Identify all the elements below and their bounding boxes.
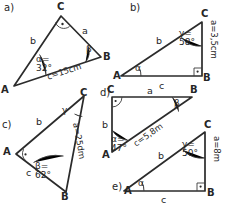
angle-label-gamma: γ [62, 106, 67, 115]
figure-panel-c: c) C B A a=25dm b c β= 62° γ [0, 88, 110, 205]
angle-label-gamma: γ= 58° [179, 29, 195, 47]
angle-label-beta: β [86, 45, 92, 54]
vertex-label-a: A [102, 150, 110, 160]
panel-label-a: a) [4, 3, 14, 13]
vertex-label-a: A [3, 147, 11, 157]
vertex-label-c: C [204, 120, 211, 130]
vertex-label-a: A [124, 186, 132, 196]
gamma-value: 50° [182, 148, 198, 158]
beta-value: 62° [35, 170, 51, 180]
angle-label-alpha: α [138, 179, 144, 188]
side-label-b: b [36, 117, 42, 127]
gamma-value: 58° [179, 37, 195, 47]
vertex-label-b: B [190, 85, 198, 95]
right-angle-dot-c [115, 100, 117, 102]
panel-label-c: c) [2, 120, 11, 130]
side-label-a: a [82, 26, 88, 36]
vertex-label-b: B [61, 192, 69, 202]
side-label-b: b [156, 36, 162, 46]
vertex-label-c: C [201, 9, 208, 19]
side-label-c: c [26, 168, 31, 178]
vertex-label-a: A [113, 71, 121, 81]
figure-panel-e: e) C B A a=8m b c α γ= 50° [113, 118, 226, 205]
right-angle-dot-c [61, 23, 63, 25]
panel-label-e: e) [112, 182, 122, 192]
side-label-a: a [147, 86, 153, 96]
figure-panel-b: b) C B A a=3,5cm b c α γ= 58° [113, 0, 226, 100]
angle-label-beta: β= 62° [35, 162, 51, 180]
figure-panel-a: a) C B A a b c=15cm α= 32° β [0, 0, 113, 100]
side-label-c: c [161, 195, 166, 205]
vertex-label-c: C [80, 88, 87, 98]
side-label-b: b [158, 151, 164, 161]
angle-label-alpha: α= 32° [36, 55, 52, 73]
angle-label-alpha: α [135, 64, 141, 73]
angle-label-gamma: γ= 50° [182, 140, 198, 158]
triangle-c-drawing [0, 88, 110, 205]
right-angle-dot-b [200, 186, 202, 188]
side-label-b: b [102, 120, 108, 130]
vertex-label-b: B [207, 188, 215, 198]
side-label-a: a=3,5cm [210, 20, 219, 59]
alpha-value: 32° [36, 63, 52, 73]
right-angle-dot-b [197, 71, 199, 73]
right-angle-dot-a [24, 153, 26, 155]
side-label-b: b [30, 36, 36, 46]
vertex-label-c: C [57, 2, 64, 12]
angle-label-beta: β [174, 99, 180, 108]
panel-label-b: b) [130, 3, 140, 13]
triangle-a-drawing [0, 0, 113, 100]
vertex-label-b: B [103, 52, 111, 62]
side-label-a: a=8m [213, 136, 222, 162]
vertex-label-c: C [107, 85, 114, 95]
vertex-label-b: B [203, 73, 211, 83]
worksheet-sheet: a) C B A a b c=15cm α= 32° β b) C B A a=… [0, 0, 226, 205]
